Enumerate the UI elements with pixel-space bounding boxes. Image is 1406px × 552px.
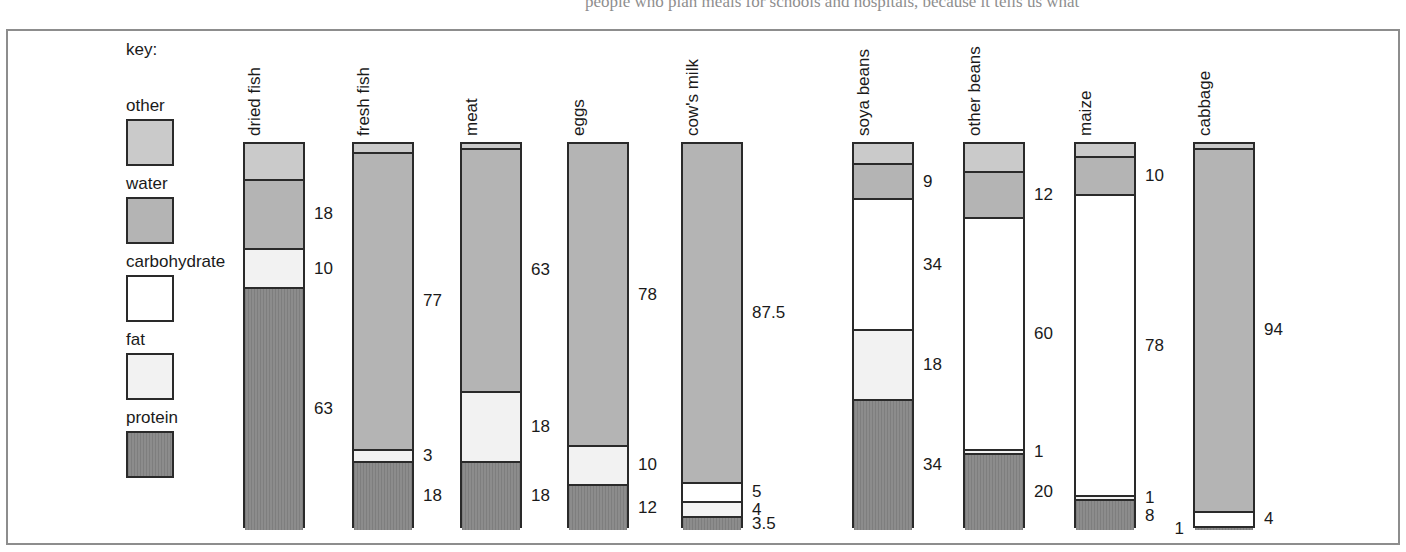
bar-stack[interactable]: 1260120 (963, 142, 1025, 528)
segment-value-label: 18 (423, 486, 442, 506)
segment-value-label: 78 (638, 285, 657, 305)
bar-group: dried fish181063 (243, 142, 305, 528)
bar-segment-fat[interactable]: 10 (569, 445, 627, 484)
bar-segment-other[interactable] (965, 144, 1023, 171)
segment-value-label: 10 (314, 259, 333, 279)
bar-segment-carbohydrate[interactable]: 5 (683, 482, 741, 501)
bar-segment-fat[interactable]: 10 (245, 248, 303, 287)
segment-value-label: 10 (1145, 166, 1164, 186)
segment-value-label: 94 (1264, 320, 1283, 340)
bar-segment-water[interactable]: 78 (569, 144, 627, 445)
segment-value-label: 34 (923, 255, 942, 275)
bar-segment-other[interactable] (245, 144, 303, 179)
bar-stack[interactable]: 631818 (460, 142, 522, 528)
segment-value-label: 78 (1145, 336, 1164, 356)
bar-stack[interactable]: 87.5543.5 (681, 142, 743, 528)
bar-stack[interactable]: 781012 (567, 142, 629, 528)
segment-value-label: 3.5 (752, 514, 776, 534)
stacked-bar-chart: dried fish181063fresh fish77318meat63181… (0, 0, 1406, 552)
bar-group: maize107818 (1074, 142, 1136, 528)
segment-value-label: 3 (423, 446, 432, 466)
bar-segment-water[interactable]: 94 (1195, 148, 1253, 511)
bar-group: meat631818 (460, 142, 522, 528)
bar-category-label: dried fish (245, 67, 265, 136)
bar-segment-water[interactable]: 10 (1076, 156, 1134, 195)
segment-value-label: 18 (531, 417, 550, 437)
segment-value-label: 1 (1034, 442, 1043, 462)
bar-group: cabbage9441 (1193, 142, 1255, 528)
bar-group: eggs781012 (567, 142, 629, 528)
bar-segment-protein[interactable]: 18 (462, 461, 520, 530)
bar-segment-protein[interactable]: 8 (1076, 499, 1134, 530)
bar-segment-water[interactable]: 9 (854, 163, 912, 198)
bar-segment-other[interactable] (854, 144, 912, 163)
segment-value-label: 4 (1264, 509, 1273, 529)
bar-segment-protein[interactable]: 12 (569, 484, 627, 530)
bar-segment-protein[interactable]: 63 (245, 287, 303, 530)
bar-stack[interactable]: 107818 (1074, 142, 1136, 528)
bar-category-label: eggs (569, 99, 589, 136)
segment-value-label: 12 (638, 498, 657, 518)
segment-value-label: 8 (1145, 506, 1154, 526)
bar-segment-water[interactable]: 77 (354, 152, 412, 449)
segment-value-label: 18 (531, 486, 550, 506)
bar-group: fresh fish77318 (352, 142, 414, 528)
segment-value-label: 18 (314, 204, 333, 224)
segment-value-label: 20 (1034, 482, 1053, 502)
bar-segment-protein[interactable]: 3.5 (683, 516, 741, 530)
bar-segment-other[interactable] (354, 144, 412, 152)
bar-segment-protein[interactable]: 20 (965, 453, 1023, 530)
bar-segment-other[interactable] (1076, 144, 1134, 156)
bar-segment-protein[interactable]: 34 (854, 399, 912, 530)
bar-segment-water[interactable]: 12 (965, 171, 1023, 217)
bar-segment-water[interactable]: 87.5 (683, 144, 741, 482)
bar-segment-carbohydrate[interactable]: 60 (965, 217, 1023, 449)
bar-category-label: other beans (965, 46, 985, 136)
segment-value-label: 18 (923, 355, 942, 375)
segment-value-label: 63 (531, 260, 550, 280)
segment-value-label: 34 (923, 455, 942, 475)
bar-segment-carbohydrate[interactable]: 4 (1195, 511, 1253, 526)
bar-stack[interactable]: 9341834 (852, 142, 914, 528)
bar-segment-protein[interactable]: 1 (1195, 526, 1253, 530)
bar-group: other beans1260120 (963, 142, 1025, 528)
bar-category-label: soya beans (854, 49, 874, 136)
segment-value-label: 87.5 (752, 303, 785, 323)
bar-category-label: cow's milk (683, 59, 703, 136)
bar-segment-protein[interactable]: 18 (354, 461, 412, 530)
bar-segment-fat[interactable]: 4 (683, 501, 741, 516)
segment-value-label: 63 (314, 399, 333, 419)
bar-segment-water[interactable]: 18 (245, 179, 303, 248)
bar-category-label: meat (462, 98, 482, 136)
bar-group: cow's milk87.5543.5 (681, 142, 743, 528)
bar-segment-fat[interactable]: 18 (854, 329, 912, 398)
bar-category-label: maize (1076, 91, 1096, 136)
bar-group: soya beans9341834 (852, 142, 914, 528)
bar-segment-carbohydrate[interactable]: 78 (1076, 194, 1134, 495)
bar-segment-carbohydrate[interactable]: 34 (854, 198, 912, 329)
bar-category-label: fresh fish (354, 67, 374, 136)
bar-segment-water[interactable]: 63 (462, 148, 520, 391)
segment-value-label: 12 (1034, 185, 1053, 205)
segment-value-label: 77 (423, 291, 442, 311)
segment-value-label: 10 (638, 455, 657, 475)
segment-value-label: 9 (923, 172, 932, 192)
bar-stack[interactable]: 9441 (1193, 142, 1255, 528)
bar-segment-fat[interactable]: 18 (462, 391, 520, 460)
bar-stack[interactable]: 77318 (352, 142, 414, 528)
segment-value-label: 1 (1175, 519, 1184, 539)
bar-category-label: cabbage (1195, 71, 1215, 136)
figure-page: people who plan meals for schools and ho… (0, 0, 1406, 552)
bar-stack[interactable]: 181063 (243, 142, 305, 528)
segment-value-label: 60 (1034, 324, 1053, 344)
bar-segment-fat[interactable]: 3 (354, 449, 412, 461)
